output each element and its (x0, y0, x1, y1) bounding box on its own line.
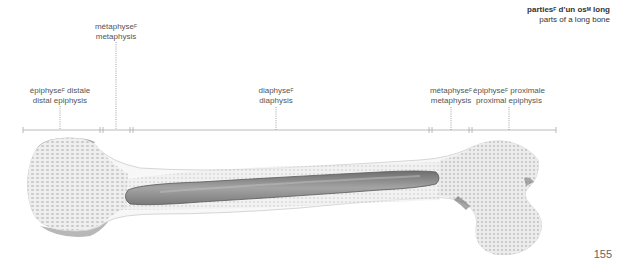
label-proximal-metaphysis: métaphyseF metaphysis (430, 86, 472, 106)
label-en: metaphysis (430, 96, 472, 106)
label-en: distal epiphysis (30, 96, 90, 106)
label-en: metaphysis (95, 32, 137, 42)
label-fr: métaphyseF (430, 86, 472, 96)
label-distal-metaphysis: métaphyseF metaphysis (95, 22, 137, 42)
label-en: proximal epiphysis (473, 96, 545, 106)
label-fr: épiphyseF distale (30, 86, 90, 96)
label-diaphysis: diaphyseF diaphysis (258, 86, 293, 106)
label-fr: diaphyseF (258, 86, 293, 96)
femur-illustration (28, 138, 542, 255)
label-en: diaphysis (258, 96, 293, 106)
label-distal-epiphysis: épiphyseF distale distal epiphysis (30, 86, 90, 106)
label-proximal-epiphysis: épiphyseF proximale proximal epiphysis (473, 86, 545, 106)
section-brackets (23, 127, 556, 133)
page-number: 155 (594, 248, 612, 260)
long-bone-diagram (0, 0, 620, 264)
label-fr: épiphyseF proximale (473, 86, 545, 96)
label-fr: métaphyseF (95, 22, 137, 32)
